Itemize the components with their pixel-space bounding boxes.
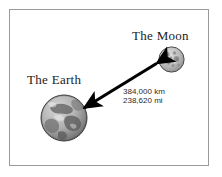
- earth-label: The Earth: [27, 72, 81, 88]
- moon-sphere-icon: [158, 46, 185, 73]
- moon-label: The Moon: [132, 28, 189, 44]
- distance-label-group: 384,000 km 238,620 mi: [123, 88, 165, 105]
- distance-mi: 238,620 mi: [123, 97, 165, 106]
- diagram-canvas: The Moon: [0, 0, 222, 177]
- earth-sphere-icon: [40, 94, 88, 142]
